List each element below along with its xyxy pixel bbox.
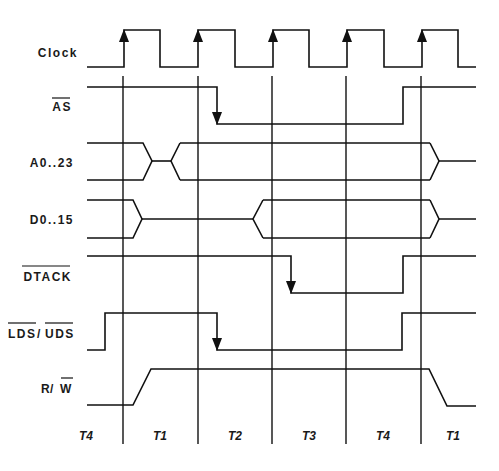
label-clock: Clock [38,46,78,60]
address-bus-waveform [87,143,476,180]
timing-diagram: Clock AS A0..23 D0..15 DTACK LDS / UDS R… [0,0,499,471]
clock-edge-gridlines [123,76,421,444]
rw-waveform [87,369,476,406]
label-lds: LDS [8,327,37,341]
label-rw-separator: / [50,382,55,396]
state-label: T4 [376,429,390,443]
state-label: T1 [446,429,460,443]
label-lds-separator: / [37,327,42,341]
dtack-waveform [87,256,476,294]
state-label: T2 [228,429,242,443]
state-label: T3 [302,429,316,443]
label-data-bus: D0..15 [30,213,74,227]
label-w: W [60,382,73,396]
data-bus-waveform [87,200,476,238]
label-uds: UDS [45,327,75,341]
as-waveform [87,87,476,125]
state-label: T1 [153,429,167,443]
label-as: AS [52,100,72,114]
label-dtack: DTACK [23,270,72,284]
lds-uds-waveform [87,313,476,351]
rising-edge-arrow-icon [193,29,203,42]
label-address-bus: A0..23 [30,156,74,170]
falling-edge-arrow-icon [212,112,222,125]
state-label: T4 [79,429,93,443]
falling-edge-arrow-icon [212,338,222,351]
falling-edge-arrow-icon [286,281,296,294]
clock-waveform [87,29,476,67]
rising-edge-arrow-icon [119,29,129,42]
rising-edge-arrow-icon [342,29,352,42]
rising-edge-arrow-icon [417,29,427,42]
rising-edge-arrow-icon [268,29,278,42]
